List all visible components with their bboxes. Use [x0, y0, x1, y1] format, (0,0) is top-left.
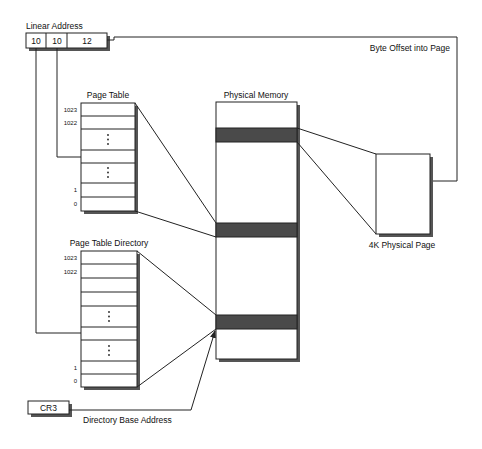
directory-projection-top [137, 251, 216, 315]
byte-offset-caption: Byte Offset into Page [370, 43, 450, 53]
page-directory-frame [216, 315, 297, 329]
page-table-index-0: 0 [74, 201, 78, 207]
physical-memory-title: Physical Memory [224, 90, 289, 100]
page-table-index-1022: 1022 [64, 120, 78, 126]
page-table-frame [216, 223, 297, 237]
page-table-index-1023: 1023 [64, 107, 78, 113]
directory-index-1023: 1023 [64, 255, 78, 261]
page-table-projection-top [135, 103, 216, 223]
directory-projection-bottom [137, 329, 216, 387]
physical-page-projection-bottom [297, 142, 376, 234]
page-table-directory-title: Page Table Directory [70, 238, 149, 248]
table-index-connector [57, 48, 81, 157]
directory-index-1: 1 [74, 365, 78, 371]
linear-address: Linear Address 10 10 12 [26, 21, 110, 51]
page-table-index-1: 1 [74, 187, 78, 193]
page-table-title: Page Table [87, 90, 130, 100]
page-table: Page Table 1023 1022 1 0 [64, 90, 138, 214]
physical-memory: Physical Memory [216, 90, 300, 362]
offset-field: 12 [82, 36, 92, 46]
directory-index-1022: 1022 [64, 269, 78, 275]
page-table-box [81, 103, 135, 211]
directory-field: 10 [31, 36, 41, 46]
cr3-label: CR3 [40, 403, 57, 413]
physical-page-box [376, 154, 430, 234]
physical-page: 4K Physical Page [369, 154, 436, 250]
page-table-directory: Page Table Directory 1023 1022 1 0 [64, 238, 149, 390]
directory-index-0: 0 [74, 378, 78, 384]
table-field: 10 [52, 36, 62, 46]
physical-page-projection-top [297, 128, 376, 154]
physical-page-title: 4K Physical Page [369, 240, 436, 250]
linear-address-title: Linear Address [26, 21, 83, 31]
page-table-directory-box [81, 251, 137, 387]
physical-page-frame [216, 128, 297, 142]
directory-base-caption: Directory Base Address [83, 415, 172, 425]
cr3-register: CR3 [28, 401, 72, 417]
page-table-projection-bottom [135, 211, 216, 237]
paging-diagram: Linear Address 10 10 12 Byte Offset into… [0, 0, 482, 449]
